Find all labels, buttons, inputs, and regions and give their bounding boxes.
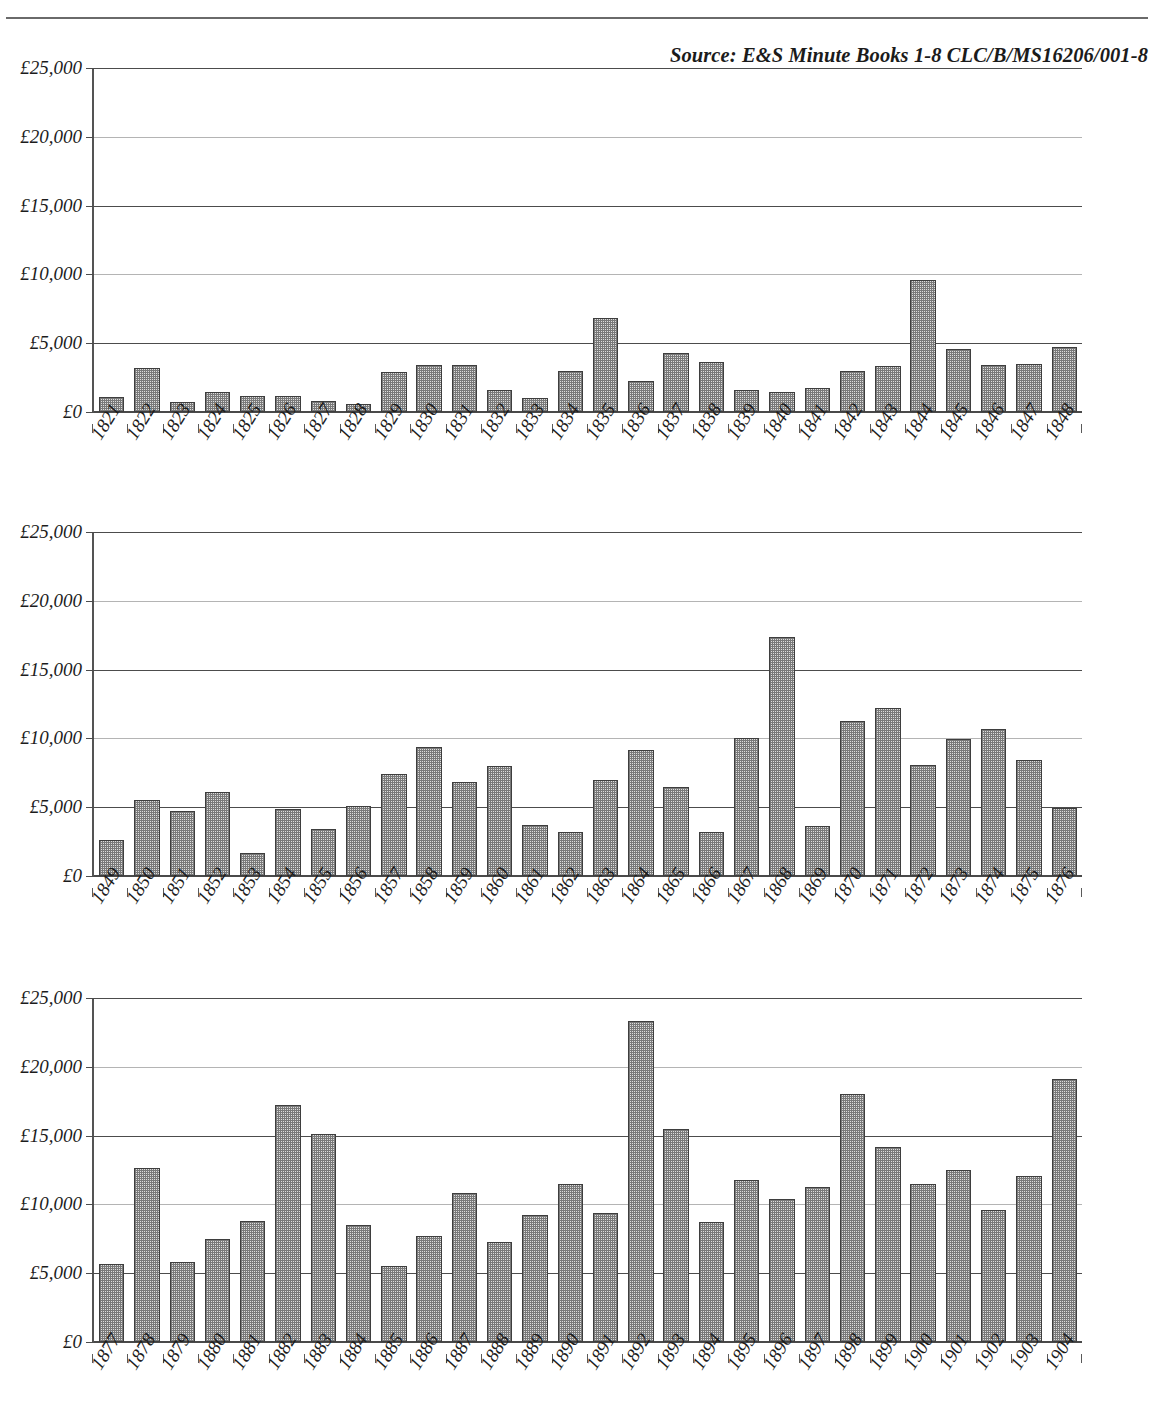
bar[interactable]: [275, 1105, 300, 1342]
bar[interactable]: [134, 800, 159, 876]
bar[interactable]: [170, 1262, 195, 1342]
bar-slot: [905, 998, 940, 1342]
y-axis-tick-label: £15,000: [20, 195, 82, 217]
bar[interactable]: [981, 1210, 1006, 1342]
bar[interactable]: [346, 1225, 371, 1342]
bar[interactable]: [346, 806, 371, 876]
bar-slot: [1011, 532, 1046, 876]
bar-slot: [553, 998, 588, 1342]
bar-slot: [659, 532, 694, 876]
bar[interactable]: [910, 280, 935, 412]
bar-slot: [306, 532, 341, 876]
x-axis-label-slot: 1832: [481, 430, 516, 492]
bar[interactable]: [910, 1184, 935, 1342]
x-axis-label-slot: 1823: [163, 430, 198, 492]
x-axis-label-slot: 1838: [693, 430, 728, 492]
x-axis-label-slot: 1822: [127, 430, 162, 492]
bar-slot: [553, 532, 588, 876]
y-axis-tick-label: £25,000: [20, 521, 82, 543]
bar[interactable]: [734, 738, 759, 876]
bar[interactable]: [381, 774, 406, 876]
bar[interactable]: [769, 1199, 794, 1342]
bar[interactable]: [416, 747, 441, 876]
bar[interactable]: [1016, 760, 1041, 876]
y-axis-tick-label: £20,000: [20, 1056, 82, 1078]
bar[interactable]: [910, 765, 935, 876]
x-axis-label-slot: 1874: [976, 894, 1011, 956]
bar[interactable]: [663, 1129, 688, 1342]
y-axis-tick-label: £10,000: [20, 263, 82, 285]
bar[interactable]: [805, 1187, 830, 1342]
bar[interactable]: [593, 1213, 618, 1342]
bar[interactable]: [487, 1242, 512, 1342]
bar[interactable]: [981, 729, 1006, 876]
x-axis-label-slot: 1856: [340, 894, 375, 956]
bar[interactable]: [205, 1239, 230, 1342]
bar-slot: [835, 532, 870, 876]
bar-slot: [588, 532, 623, 876]
bar[interactable]: [1016, 1176, 1041, 1342]
x-axis-label-slot: 1898: [835, 1360, 870, 1422]
bar[interactable]: [593, 318, 618, 412]
x-axis-label-slot: 1903: [1011, 1360, 1046, 1422]
bar-slot: [447, 532, 482, 876]
bar[interactable]: [628, 750, 653, 876]
bar-slot: [482, 998, 517, 1342]
bar[interactable]: [240, 1221, 265, 1342]
bar-slot: [905, 68, 940, 412]
x-axis-label-slot: 1894: [693, 1360, 728, 1422]
x-axis-label-slot: 1834: [552, 430, 587, 492]
bar-slot: [165, 68, 200, 412]
bar-slot: [870, 532, 905, 876]
y-axis-tick-mark: [86, 738, 94, 739]
x-axis-label-slot: 1873: [941, 894, 976, 956]
bar[interactable]: [134, 1168, 159, 1342]
bar[interactable]: [769, 637, 794, 876]
y-axis-tick-mark: [86, 343, 94, 344]
bar[interactable]: [875, 708, 900, 876]
y-axis-tick-label: £20,000: [20, 590, 82, 612]
bar[interactable]: [452, 782, 477, 876]
bar-slot: [482, 532, 517, 876]
x-axis-label-slot: 1863: [587, 894, 622, 956]
y-axis-tick-mark: [86, 1342, 94, 1343]
bar[interactable]: [558, 1184, 583, 1342]
x-axis-label-slot: 1872: [905, 894, 940, 956]
bar[interactable]: [840, 721, 865, 876]
bar[interactable]: [311, 1134, 336, 1342]
bar[interactable]: [487, 766, 512, 876]
y-axis-tick-mark: [86, 68, 94, 69]
bar[interactable]: [946, 739, 971, 876]
bar[interactable]: [522, 1215, 547, 1342]
bar[interactable]: [840, 1094, 865, 1342]
bar-slot: [306, 68, 341, 412]
y-axis-tick-label: £15,000: [20, 659, 82, 681]
bar[interactable]: [452, 1193, 477, 1342]
bar-slot: [270, 532, 305, 876]
bar[interactable]: [99, 1264, 124, 1342]
x-axis-label-slot: 1840: [764, 430, 799, 492]
x-axis-labels: 1821182218231824182518261827182818291830…: [92, 430, 1082, 492]
bar[interactable]: [875, 1147, 900, 1342]
bar[interactable]: [628, 1021, 653, 1342]
bar[interactable]: [1052, 1079, 1077, 1342]
x-axis-label-slot: 1876: [1047, 894, 1082, 956]
bar[interactable]: [205, 792, 230, 876]
bar-slot: [200, 68, 235, 412]
bar[interactable]: [381, 1266, 406, 1342]
bar-slot: [588, 68, 623, 412]
x-axis-label-slot: 1895: [728, 1360, 763, 1422]
bar[interactable]: [275, 809, 300, 876]
bar-slot: [341, 532, 376, 876]
y-axis-tick-mark: [86, 137, 94, 138]
x-axis-label-slot: 1897: [799, 1360, 834, 1422]
x-axis-label-slot: 1886: [410, 1360, 445, 1422]
bar[interactable]: [593, 780, 618, 876]
bar[interactable]: [699, 1222, 724, 1342]
bar-slot: [1047, 532, 1082, 876]
bar[interactable]: [663, 787, 688, 876]
bar[interactable]: [416, 1236, 441, 1342]
x-axis-label-slot: 1850: [127, 894, 162, 956]
bar[interactable]: [946, 1170, 971, 1342]
bar[interactable]: [734, 1180, 759, 1342]
